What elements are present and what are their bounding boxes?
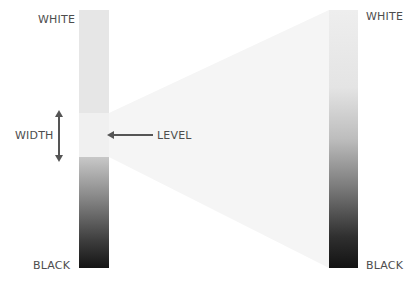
left-bar-window-region (79, 113, 109, 157)
left-white-label: WHITE (38, 13, 75, 26)
right-black-label: BLACK (366, 259, 403, 272)
width-label: WIDTH (15, 129, 54, 142)
left-bar-white-region (79, 10, 109, 113)
right-bar-full-gradient (329, 10, 358, 268)
level-arrow-icon (107, 130, 153, 140)
level-label: LEVEL (157, 129, 192, 142)
width-double-arrow-icon (53, 110, 65, 162)
left-black-label: BLACK (33, 259, 70, 272)
left-bar-black-gradient (79, 157, 109, 268)
right-white-label: WHITE (366, 10, 403, 23)
